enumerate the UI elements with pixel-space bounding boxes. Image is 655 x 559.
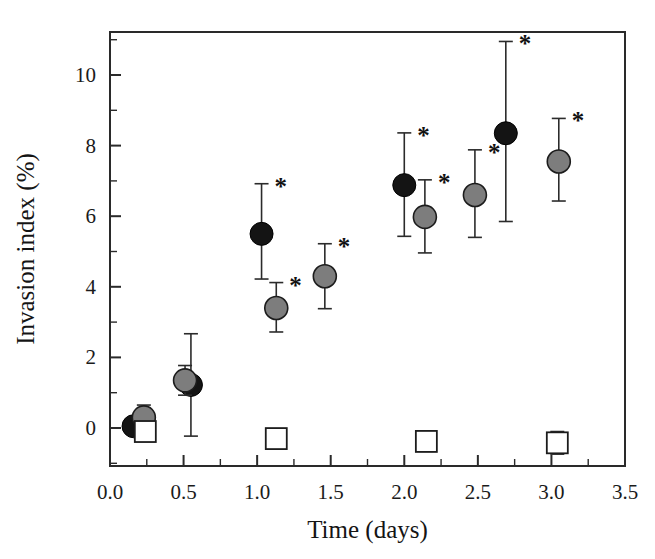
data-point-open-square xyxy=(416,431,437,452)
significance-asterisk: * xyxy=(572,107,585,134)
data-point-open-square xyxy=(135,421,156,442)
y-tick-label: 4 xyxy=(86,275,97,299)
data-point-filled-circle xyxy=(313,265,336,288)
significance-asterisk: * xyxy=(438,169,451,196)
data-point-filled-circle xyxy=(393,174,416,197)
x-tick-label: 0.5 xyxy=(170,480,196,504)
data-point-filled-circle xyxy=(547,150,570,173)
x-tick-label: 0.0 xyxy=(97,480,123,504)
y-tick-label: 8 xyxy=(86,134,97,158)
data-point-filled-circle xyxy=(250,222,273,245)
significance-asterisk: * xyxy=(275,173,288,200)
data-point-filled-circle xyxy=(174,369,197,392)
x-tick-label: 3.0 xyxy=(538,480,564,504)
x-tick-label: 1.5 xyxy=(318,480,344,504)
data-point-open-square xyxy=(266,428,287,449)
x-tick-label: 2.0 xyxy=(391,480,417,504)
significance-asterisk: * xyxy=(519,30,532,57)
y-tick-label: 10 xyxy=(75,63,96,87)
significance-asterisk: * xyxy=(289,272,302,299)
y-tick-label: 0 xyxy=(86,416,97,440)
x-tick-label: 1.0 xyxy=(244,480,270,504)
y-tick-label: 6 xyxy=(86,204,97,228)
y-tick-label: 2 xyxy=(86,345,97,369)
significance-asterisk: * xyxy=(338,233,351,260)
data-point-filled-circle xyxy=(463,184,486,207)
y-axis-title: Invasion index (%) xyxy=(12,153,40,345)
x-axis-title: Time (days) xyxy=(307,516,428,544)
invasion-index-chart: 02468100.00.51.01.52.02.53.03.5Time (day… xyxy=(0,0,655,559)
data-point-filled-circle xyxy=(265,296,288,319)
significance-asterisk: * xyxy=(488,139,501,166)
chart-canvas: 02468100.00.51.01.52.02.53.03.5Time (day… xyxy=(0,0,655,559)
significance-asterisk: * xyxy=(417,122,430,149)
data-point-filled-circle xyxy=(413,205,436,228)
series-open-square-control xyxy=(135,421,568,454)
plot-frame xyxy=(110,32,625,466)
x-tick-label: 2.5 xyxy=(465,480,491,504)
x-tick-label: 3.5 xyxy=(612,480,638,504)
data-point-open-square xyxy=(547,432,568,453)
